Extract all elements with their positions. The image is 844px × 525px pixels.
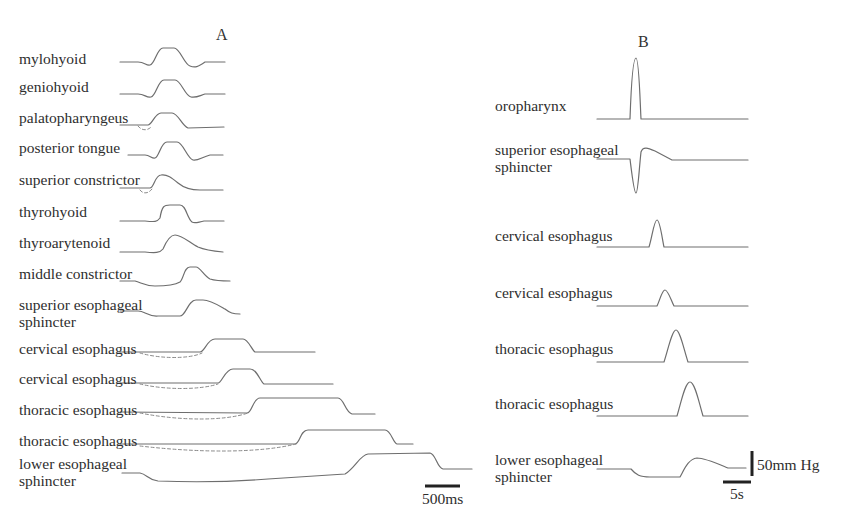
trace-label-superior-constrictor: superior constrictor xyxy=(19,171,140,188)
trace-label-cervical-esophagus-1: cervical esophagus xyxy=(19,340,137,357)
trace-a-geniohyoid xyxy=(120,80,225,97)
trace-label-thyroarytenoid: thyroarytenoid xyxy=(19,234,110,251)
trace-label-thoracic-esophagus-2: thoracic esophagus xyxy=(495,395,613,412)
trace-b-lower-esophageal-sphincter xyxy=(597,458,746,477)
figure: A B mylohyoidgeniohyoidpalatopharyngeusp… xyxy=(0,0,844,525)
trace-a-cervical-esophagus-1 xyxy=(120,339,315,352)
trace-label-posterior-tongue: posterior tongue xyxy=(19,139,120,156)
trace-label-thyrohyoid: thyrohyoid xyxy=(19,203,87,220)
trace-label-geniohyoid: geniohyoid xyxy=(19,78,89,95)
trace-label-palatopharyngeus: palatopharyngeus xyxy=(19,109,128,126)
trace-label-oropharynx: oropharynx xyxy=(495,97,566,114)
trace-label-mylohyoid: mylohyoid xyxy=(19,50,86,67)
time-scale-label-5s: 5s xyxy=(730,485,744,503)
trace-label-cervical-esophagus-2: cervical esophagus xyxy=(19,370,137,387)
trace-a-palatopharyngeus xyxy=(120,113,224,128)
trace-a-palatopharyngeus-baseline-dashed xyxy=(138,126,152,130)
trace-a-middle-constrictor xyxy=(120,267,230,286)
pressure-scale-label: 50mm Hg xyxy=(757,456,819,474)
trace-a-thyroarytenoid xyxy=(120,235,223,253)
trace-label-middle-constrictor: middle constrictor xyxy=(19,265,132,282)
trace-b-thoracic-esophagus-1 xyxy=(597,330,748,362)
trace-a-superior-constrictor-baseline-dashed xyxy=(140,189,152,193)
trace-b-superior-esophageal-sphincter xyxy=(597,148,748,193)
trace-label-cervical-esophagus-2: cervical esophagus xyxy=(495,284,613,301)
trace-a-cervical-esophagus-2 xyxy=(120,369,333,384)
trace-label-lower-esophageal-sphincter: lower esophageal sphincter xyxy=(19,455,127,489)
panel-a-label: A xyxy=(216,26,228,44)
trace-a-thoracic-esophagus-1 xyxy=(120,398,375,414)
trace-label-superior-esophageal-sphincter: superior esophageal sphincter xyxy=(495,141,619,175)
trace-a-posterior-tongue xyxy=(128,142,223,160)
trace-a-lower-esophageal-sphincter xyxy=(122,453,472,482)
trace-a-mylohyoid xyxy=(120,48,225,67)
trace-label-thoracic-esophagus-1: thoracic esophagus xyxy=(19,401,137,418)
trace-label-cervical-esophagus-1: cervical esophagus xyxy=(495,227,613,244)
trace-a-thyrohyoid xyxy=(120,205,224,223)
trace-b-cervical-esophagus-1 xyxy=(597,220,748,247)
trace-a-thoracic-esophagus-1-baseline-dashed xyxy=(140,413,248,419)
trace-label-thoracic-esophagus-1: thoracic esophagus xyxy=(495,340,613,357)
trace-b-oropharynx xyxy=(597,58,748,119)
trace-b-cervical-esophagus-2 xyxy=(597,290,748,306)
trace-a-thoracic-esophagus-2-baseline-dashed xyxy=(140,444,296,451)
trace-label-thoracic-esophagus-2: thoracic esophagus xyxy=(19,432,137,449)
time-scale-label-500ms: 500ms xyxy=(422,490,463,508)
panel-b-label: B xyxy=(638,33,649,51)
trace-label-lower-esophageal-sphincter: lower esophageal sphincter xyxy=(495,451,603,485)
trace-a-thoracic-esophagus-2 xyxy=(120,430,413,444)
trace-a-cervical-esophagus-1-baseline-dashed xyxy=(140,353,202,358)
trace-a-cervical-esophagus-2-baseline-dashed xyxy=(140,384,218,389)
trace-label-superior-esophageal-sphincter: superior esophageal sphincter xyxy=(19,296,143,330)
trace-b-thoracic-esophagus-2 xyxy=(597,382,748,416)
